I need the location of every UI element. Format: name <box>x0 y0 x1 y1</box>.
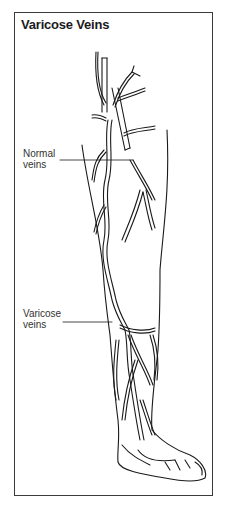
thigh-vein-branches <box>92 150 155 242</box>
leg-outline <box>82 130 206 481</box>
foot-veins <box>122 445 202 475</box>
leg-illustration <box>0 0 226 513</box>
